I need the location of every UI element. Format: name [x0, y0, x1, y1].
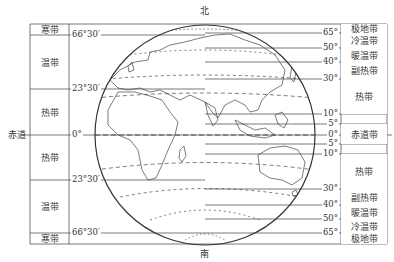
north-label: 北 [200, 6, 209, 16]
right-zone-12: 极地带 [341, 233, 387, 244]
right-zone-6: 赤道带 [341, 124, 387, 144]
left-zone-2: 热带 [30, 89, 69, 135]
right-zone-2: 暖温带 [341, 48, 387, 62]
right-zone-7 [341, 144, 387, 154]
right-zone-11: 冷温带 [341, 219, 387, 233]
right-latitude-label-9: 30° [322, 184, 339, 193]
climate-zones-diagram: 北 南 赤道 寒带温带热带热带温带寒带 66°30′23°30′0°23°30′… [0, 0, 394, 262]
right-zone-10: 暖温带 [341, 205, 387, 219]
left-zone-4: 温带 [30, 180, 69, 233]
south-label: 南 [200, 249, 209, 259]
left-latitude-label-0: 66°30′ [71, 30, 101, 39]
left-latitude-label-3: 23°30′ [71, 175, 101, 184]
right-latitude-label-11: 50° [322, 214, 339, 223]
right-zone-9: 副热带 [341, 189, 387, 205]
left-latitude-label-1: 23°30′ [71, 84, 101, 93]
right-latitude-label-12: 65° [322, 228, 339, 237]
left-zone-0: 寒带 [30, 24, 69, 35]
right-latitude-label-10: 40° [322, 200, 339, 209]
right-latitude-label-4: 10° [322, 109, 339, 118]
right-latitude-label-5: 5° [327, 119, 339, 128]
right-latitude-label-7: 5° [327, 139, 339, 148]
globe-continents [95, 29, 315, 240]
right-zone-1: 冷温带 [341, 33, 387, 48]
right-zone-8: 热带 [341, 154, 387, 189]
equator-label: 赤道 [8, 130, 26, 140]
right-zone-5 [341, 114, 387, 124]
right-zone-4: 热带 [341, 79, 387, 114]
left-zone-1: 温带 [30, 35, 69, 89]
right-latitude-label-2: 40° [322, 57, 339, 66]
right-zone-0: 极地带 [341, 24, 387, 33]
left-latitude-label-2: 0° [71, 130, 83, 139]
right-zone-3: 副热带 [341, 62, 387, 79]
left-latitude-label-4: 66°30′ [71, 228, 101, 237]
right-latitude-label-1: 50° [322, 43, 339, 52]
right-latitude-label-8: 10° [322, 149, 339, 158]
right-latitude-label-0: 65° [322, 28, 339, 37]
left-zone-5: 寒带 [30, 233, 69, 244]
left-zone-3: 热带 [30, 135, 69, 180]
right-latitude-label-3: 30° [322, 74, 339, 83]
